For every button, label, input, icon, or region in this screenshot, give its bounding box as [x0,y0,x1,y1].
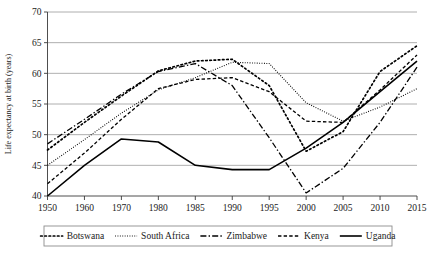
legend-label-botswana: Botswana [67,231,105,241]
series-lines [48,46,418,196]
series-line-uganda [48,61,418,196]
series-line-kenya [48,55,418,184]
x-tick-label: 1980 [149,203,168,213]
x-tick-label: 1995 [260,203,279,213]
x-tick-label: 2015 [408,203,427,213]
line-chart: 40455055606570 1950196019701980198519901… [0,0,432,253]
x-tick-label: 1990 [223,203,242,213]
x-tick-label: 1985 [186,203,205,213]
x-tick-label: 2010 [371,203,390,213]
y-tick-label: 60 [32,69,42,79]
legend-label-kenya: Kenya [304,231,330,241]
x-tick-label: 2000 [297,203,316,213]
y-tick-label: 70 [32,7,42,17]
y-tick-label: 40 [32,191,42,201]
y-tick-label: 65 [32,38,42,48]
gridlines [48,12,418,165]
legend-label-uganda: Uganda [366,231,396,241]
x-tick-label: 1970 [112,203,131,213]
y-axis: 40455055606570 [32,7,48,201]
y-axis-title: Life expectancy at birth (years) [4,53,13,154]
y-axis-label: Life expectancy at birth (years) [4,53,13,154]
chart-legend: BotswanaSouth AfricaZimbabweKenyaUganda [41,226,397,246]
x-tick-label: 1960 [75,203,94,213]
x-tick-label: 2005 [334,203,353,213]
legend-label-south-africa: South Africa [141,231,190,241]
y-tick-label: 50 [32,130,42,140]
series-line-zimbabwe [48,64,418,193]
legend-label-zimbabwe: Zimbabwe [226,231,267,241]
x-axis: 1950196019701980198519901995200020052010… [38,196,427,213]
chart-figure: 40455055606570 1950196019701980198519901… [0,0,432,253]
y-tick-label: 45 [32,161,42,171]
y-tick-label: 55 [32,99,42,109]
x-tick-label: 1950 [38,203,57,213]
